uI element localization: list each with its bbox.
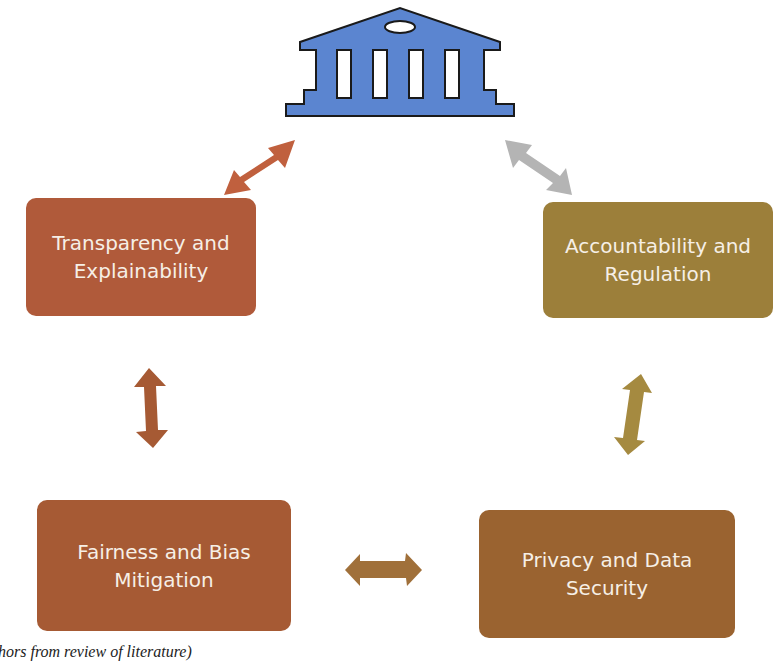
node-fairness-bias-mitigation: Fairness and Bias Mitigation — [37, 500, 291, 631]
node-accountability-regulation: Accountability and Regulation — [543, 202, 773, 318]
arrow-institution-transparency — [224, 140, 295, 195]
figure-caption: hors from review of literature) — [0, 643, 192, 661]
institution-building-icon — [286, 8, 514, 116]
node-label: Privacy and Data Security — [489, 546, 725, 602]
arrow-fairness-privacy — [345, 553, 422, 586]
node-label: Transparency and Explainability — [36, 229, 246, 285]
node-label: Fairness and Bias Mitigation — [47, 538, 281, 594]
node-privacy-data-security: Privacy and Data Security — [479, 510, 735, 638]
arrow-institution-accountability — [505, 140, 572, 195]
node-label: Accountability and Regulation — [553, 232, 763, 288]
node-transparency-explainability: Transparency and Explainability — [26, 198, 256, 316]
arrow-accountability-privacy — [614, 374, 652, 455]
arrow-transparency-fairness — [134, 368, 168, 448]
